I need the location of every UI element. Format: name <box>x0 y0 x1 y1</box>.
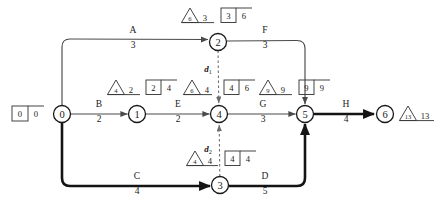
node-annotation-6: 13 13 <box>400 106 435 121</box>
node-label-4: 4 <box>216 109 222 120</box>
node-label-0: 0 <box>59 109 64 120</box>
node-3[interactable]: 3 <box>212 177 229 194</box>
edge-label-name-E: E <box>175 99 181 109</box>
triangle-inner-node-3: 4 <box>193 158 197 165</box>
dummy-edge-path-d2 <box>219 125 220 177</box>
edge-label-name-A: A <box>130 25 137 35</box>
node-6[interactable]: 6 <box>377 106 394 123</box>
edge-label-duration-G: 3 <box>261 114 266 124</box>
node-label-1: 1 <box>134 109 139 120</box>
triangle-value-node-3: 4 <box>208 156 213 166</box>
edge-label-name-B: B <box>96 99 102 109</box>
edge-label-duration-E: 2 <box>176 114 181 124</box>
dummy-edge-path-d1 <box>218 51 219 104</box>
node-label-6: 6 <box>382 109 387 120</box>
box-left-value-node-2: 3 <box>226 11 230 21</box>
edge-label-name-F: F <box>262 25 267 35</box>
node-label-5: 5 <box>302 109 307 120</box>
node-annotation-0: 0 0 <box>12 106 44 121</box>
edge-label-name-H: H <box>343 99 350 109</box>
edge-label-duration-H: 4 <box>344 114 349 124</box>
box-right-value-node-4: 6 <box>245 83 250 93</box>
triangle-value-node-2: 3 <box>203 13 207 23</box>
edge-label-duration-D: 5 <box>263 186 268 196</box>
node-0[interactable]: 0 <box>54 106 71 123</box>
node-annotation-4: 6 4 4 6 <box>184 80 256 95</box>
node-1[interactable]: 1 <box>129 106 146 123</box>
edge-label-name-C: C <box>134 171 140 181</box>
node-4[interactable]: 4 <box>211 106 228 123</box>
node-5[interactable]: 5 <box>297 106 314 123</box>
edge-label-duration-F: 3 <box>263 40 268 50</box>
triangle-value-node-6: 13 <box>421 111 430 121</box>
box-left-value-node-5: 9 <box>304 83 308 93</box>
node-label-2: 2 <box>215 37 220 48</box>
box-left-value-node-0: 0 <box>18 109 22 119</box>
edge-label-duration-A: 3 <box>131 40 136 50</box>
box-right-value-node-0: 0 <box>34 109 38 119</box>
node-2[interactable]: 2 <box>210 34 227 51</box>
box-left-value-node-3: 4 <box>230 154 235 164</box>
triangle-inner-node-5: 9 <box>266 87 270 94</box>
dummy-label-d1: d1 <box>204 64 212 75</box>
box-left-value-node-4: 4 <box>229 83 234 93</box>
box-right-value-node-1: 4 <box>167 83 172 93</box>
triangle-value-node-5: 9 <box>281 85 285 95</box>
box-right-value-node-2: 6 <box>242 11 247 21</box>
triangle-inner-node-6: 13 <box>405 113 412 120</box>
node-label-3: 3 <box>217 180 222 191</box>
edge-label-duration-C: 4 <box>135 186 140 196</box>
edge-label-name-D: D <box>262 171 269 181</box>
network-diagram-svg: A 3 B 2 C 4 E 2 F 3 G 3 D 5 H 4 d1 d2 0 … <box>0 0 438 214</box>
dummy-label-d2: d2 <box>204 144 212 155</box>
triangle-value-node-4: 4 <box>205 85 210 95</box>
node-annotation-2: 6 3 3 6 <box>182 8 253 23</box>
box-right-value-node-3: 4 <box>246 154 251 164</box>
node-annotation-3: 4 4 4 4 <box>187 151 257 166</box>
triangle-value-node-1: 2 <box>129 85 133 95</box>
box-left-value-node-1: 2 <box>151 83 155 93</box>
network-diagram-canvas: A 3 B 2 C 4 E 2 F 3 G 3 D 5 H 4 d1 d2 0 … <box>0 0 438 214</box>
triangle-inner-node-1: 4 <box>114 87 118 94</box>
triangle-inner-node-4: 6 <box>190 87 194 94</box>
edge-label-name-G: G <box>260 99 267 109</box>
triangle-inner-node-2: 6 <box>188 15 192 22</box>
node-annotation-5: 9 9 9 9 <box>260 80 331 95</box>
edge-label-duration-B: 2 <box>97 114 102 124</box>
node-annotation-1: 4 2 2 4 <box>108 80 178 95</box>
box-right-value-node-5: 9 <box>320 83 324 93</box>
